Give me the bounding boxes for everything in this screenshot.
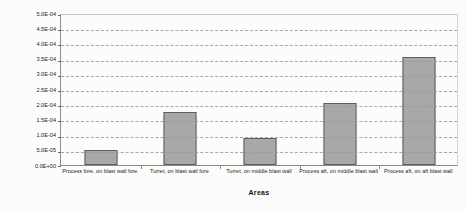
bar-group	[141, 15, 221, 165]
y-axis-tick-mark	[58, 61, 61, 62]
y-axis-tick-labels: 0.0E+005.0E-051.0E-041.5E-042.0E-042.5E-…	[18, 0, 56, 211]
gridline	[61, 106, 457, 107]
y-axis-tick-label: 3.5E-04	[18, 56, 56, 63]
bar-chart: Frequency of loads exceeding design basi…	[0, 0, 466, 211]
y-axis-tick-mark	[58, 76, 61, 77]
bar	[403, 57, 436, 165]
y-axis-tick-label: 0.0E+00	[18, 163, 56, 170]
y-axis-tick-mark	[58, 137, 61, 138]
bar-group	[379, 15, 459, 165]
gridline	[61, 30, 457, 31]
y-axis-tick-label: 2.5E-04	[18, 87, 56, 94]
bar	[164, 112, 197, 165]
gridline	[61, 121, 457, 122]
y-axis-tick-mark	[58, 121, 61, 122]
x-axis-tick-label: Turret, on middle blast wall	[219, 168, 299, 176]
y-axis-tick-label: 5.0E-05	[18, 147, 56, 154]
gridline	[61, 61, 457, 62]
plot-area	[60, 14, 458, 166]
y-axis-tick-mark	[58, 30, 61, 31]
y-axis-tick-mark	[58, 152, 61, 153]
gridline	[61, 91, 457, 92]
y-axis-tick-label: 3.0E-04	[18, 71, 56, 78]
x-axis-tick-label: Process fore, on blast wall fore	[60, 168, 140, 176]
gridline	[61, 76, 457, 77]
y-axis-tick-label: 5.0E-04	[18, 11, 56, 18]
bar	[323, 103, 356, 165]
y-axis-tick-label: 4.0E-04	[18, 41, 56, 48]
gridline	[61, 137, 457, 138]
y-axis-tick-mark	[58, 15, 61, 16]
gridline	[61, 45, 457, 46]
y-axis-tick-mark	[58, 106, 61, 107]
bar-group	[220, 15, 300, 165]
x-axis-tick-label: Process aft, on middle blast wall	[299, 168, 379, 176]
y-axis-tick-mark	[58, 91, 61, 92]
x-axis-title: Areas	[60, 189, 458, 196]
bar-group	[61, 15, 141, 165]
y-axis-tick-mark	[58, 45, 61, 46]
y-axis-tick-label: 1.5E-04	[18, 117, 56, 124]
y-axis-tick-mark	[58, 166, 61, 167]
x-axis-tick-label: Turret, on blast wall fore	[140, 168, 220, 176]
gridline	[61, 152, 457, 153]
bars-layer	[61, 15, 457, 165]
y-axis-tick-label: 1.0E-04	[18, 132, 56, 139]
y-axis-tick-label: 4.5E-04	[18, 26, 56, 33]
bar-group	[300, 15, 380, 165]
x-axis-tick-label: Process aft, on aft blast wall	[378, 168, 458, 176]
y-axis-tick-label: 2.0E-04	[18, 102, 56, 109]
